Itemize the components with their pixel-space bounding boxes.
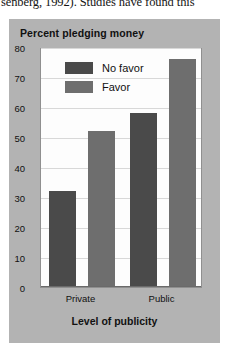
x-axis-line (41, 286, 201, 287)
plot-area: No favor Favor (40, 48, 202, 288)
chart-title: Percent pledging money (20, 27, 144, 39)
y-axis-tick-label: 0 (3, 283, 25, 294)
y-axis-tick-label: 20 (3, 223, 25, 234)
page-body-text: senberg, 1992). Studies have found this (0, 0, 229, 15)
legend: No favor Favor (65, 61, 144, 99)
legend-label-favor: Favor (102, 81, 130, 93)
y-axis-tick-label: 80 (3, 43, 25, 54)
bar-no-favor-private (49, 191, 76, 287)
y-axis-tick-label: 10 (3, 253, 25, 264)
page-body-text-line: senberg, 1992). Studies have found this (1, 0, 194, 9)
bar-favor-public (169, 59, 196, 287)
gridline (41, 48, 201, 49)
legend-swatch-no-favor (65, 62, 93, 74)
bar-favor-private (88, 131, 115, 287)
bar-no-favor-public (130, 113, 157, 287)
chart-figure: Percent pledging money 01020304050607080… (9, 19, 220, 343)
y-axis-tick-label: 30 (3, 193, 25, 204)
legend-swatch-favor (65, 81, 93, 93)
y-axis-tick-label: 60 (3, 103, 25, 114)
x-axis-tick-label: Public (149, 293, 175, 304)
y-axis-tick-label: 50 (3, 133, 25, 144)
x-axis-tick-label: Private (66, 293, 96, 304)
legend-item-no-favor: No favor (65, 61, 144, 74)
legend-label-no-favor: No favor (102, 62, 144, 74)
legend-item-favor: Favor (65, 80, 144, 93)
y-axis-tick-label: 70 (3, 73, 25, 84)
x-axis-title: Level of publicity (9, 315, 220, 327)
y-axis-tick-label: 40 (3, 163, 25, 174)
